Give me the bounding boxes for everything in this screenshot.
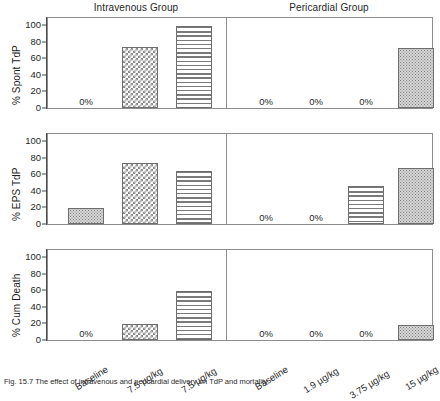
y-axis-tick-mark [42,91,46,92]
y-axis-tick-label: 80 [30,37,41,47]
y-axis-tick-mark [42,207,46,208]
y-axis-spine [46,17,47,109]
figure-caption: Fig. 15.7 The effect of intravenous and … [4,377,436,386]
y-axis-tick-label: 100 [25,20,41,30]
y-axis-tick-label: 60 [30,285,41,295]
bar [122,47,158,108]
y-axis-label-eps-tdp: % EPS TdP [11,167,22,221]
y-axis-tick-mark [42,273,46,274]
y-axis-tick-mark [42,174,46,175]
y-axis-cum-death: 020406080100 [0,249,46,341]
group-divider [226,18,227,108]
y-axis-tick-label: 80 [30,153,41,163]
bar [122,163,158,224]
y-axis-tick-label: 40 [30,70,41,80]
y-axis-tick-mark [42,25,46,26]
y-axis-tick-mark [42,190,46,191]
bar-value-label: 0% [309,213,323,223]
y-axis-tick-mark [42,257,46,258]
y-axis-tick-mark [42,340,46,341]
bar [176,26,212,108]
y-axis-spont-tdp: 020406080100 [0,17,46,109]
bar-value-label: 0% [79,97,93,107]
y-axis-spine [46,249,47,341]
y-axis-label-spont-tdp: % Spont TdP [11,45,22,105]
y-axis-tick-mark [42,108,46,109]
y-axis-tick-label: 60 [30,169,41,179]
bar [398,325,434,340]
chart-panel-cum-death: 0%0%0%0% [47,249,433,341]
bar-value-label: 0% [259,329,273,339]
bar [176,291,212,340]
bar-value-label: 0% [259,97,273,107]
bar-value-label: 0% [79,329,93,339]
y-axis-tick-mark [42,141,46,142]
y-axis-tick-label: 0 [36,219,41,229]
y-axis-tick-mark [42,290,46,291]
y-axis-label-cum-death: % Cum Death [11,274,22,337]
y-axis-tick-mark [42,306,46,307]
y-axis-eps-tdp: 020406080100 [0,133,46,225]
y-axis-tick-label: 40 [30,186,41,196]
y-axis-tick-label: 20 [30,87,41,97]
chart-panel-eps-tdp: 0%0% [47,133,433,225]
bar [398,48,434,108]
y-axis-tick-mark [42,58,46,59]
bar-value-label: 0% [359,329,373,339]
y-axis-tick-label: 40 [30,302,41,312]
group-divider [226,250,227,340]
y-axis-tick-mark [42,157,46,158]
bar [122,324,158,340]
y-axis-tick-label: 60 [30,53,41,63]
y-axis-tick-mark [42,74,46,75]
y-axis-tick-label: 80 [30,269,41,279]
bar [176,171,212,224]
y-axis-tick-label: 100 [25,136,41,146]
bar-value-label: 0% [309,97,323,107]
y-axis-tick-label: 0 [36,103,41,113]
y-axis-tick-label: 20 [30,319,41,329]
y-axis-tick-mark [42,323,46,324]
y-axis-tick-mark [42,41,46,42]
bar-value-label: 0% [259,213,273,223]
y-axis-tick-label: 0 [36,335,41,345]
y-axis-tick-label: 100 [25,252,41,262]
bar-value-label: 0% [359,97,373,107]
bar [398,168,434,224]
y-axis-spine [46,133,47,225]
group-title-intravenous: Intravenous Group [47,2,225,13]
chart-panel-spont-tdp: 0%0%0%0% [47,17,433,109]
y-axis-tick-label: 20 [30,203,41,213]
y-axis-tick-mark [42,224,46,225]
bar-value-label: 0% [309,329,323,339]
group-divider [226,134,227,224]
bar [68,208,104,224]
group-title-pericardial: Pericardial Group [225,2,433,13]
bar [348,186,384,224]
